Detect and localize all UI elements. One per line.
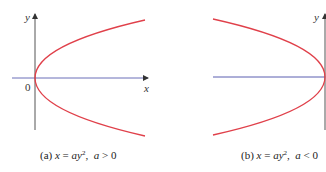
caption-b-exp: 2 (284, 149, 288, 157)
caption-a-cond-op: > (99, 149, 111, 161)
y-axis-label-b: y (314, 12, 319, 23)
caption-b-eq: = (261, 149, 273, 161)
caption-b-cond-val: 0 (313, 149, 319, 161)
graph-b (213, 14, 325, 135)
caption-a: (a) x = ay2, a > 0 (40, 150, 116, 161)
graph-a (12, 14, 148, 136)
caption-b: (b) x = ay2, a < 0 (241, 150, 318, 161)
parabola-figure (0, 0, 326, 172)
x-axis-label-a: x (144, 83, 149, 94)
caption-b-cond-op: < (301, 149, 313, 161)
caption-b-prefix: (b) (241, 149, 254, 161)
caption-a-prefix: (a) (40, 149, 52, 161)
y-axis-label-a: y (25, 12, 30, 23)
caption-a-eq: = (60, 149, 72, 161)
caption-b-rhs: ay (273, 149, 283, 161)
origin-label-a: 0 (25, 82, 31, 93)
caption-a-rhs: ay (72, 149, 82, 161)
caption-a-cond-val: 0 (111, 149, 117, 161)
caption-a-exp: 2 (82, 149, 86, 157)
